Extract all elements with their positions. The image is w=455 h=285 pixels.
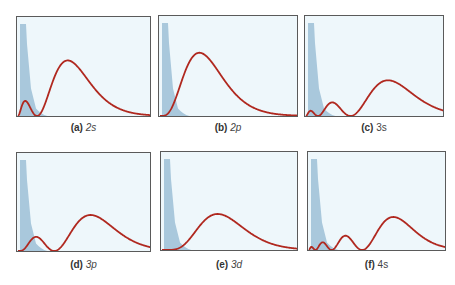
radial-probability-curve bbox=[18, 60, 151, 116]
caption-3p: (d) 3p bbox=[16, 259, 151, 270]
curve-svg bbox=[159, 16, 298, 117]
core-density-area bbox=[311, 159, 341, 251]
caption-orbital: 3d bbox=[231, 259, 242, 270]
caption-3d: (e) 3d bbox=[160, 259, 298, 270]
caption-tag: (f) bbox=[365, 259, 378, 270]
curve-svg bbox=[17, 153, 151, 252]
panel-3p: (d) 3p bbox=[16, 152, 151, 274]
core-density-area bbox=[164, 159, 194, 251]
caption-orbital: 2p bbox=[230, 122, 241, 133]
panel-4s: (f) 4s bbox=[307, 151, 446, 273]
curve-svg bbox=[305, 16, 444, 117]
curve-svg bbox=[308, 152, 446, 251]
panel-2s: (a) 2s bbox=[16, 16, 151, 138]
caption-2p: (b) 2p bbox=[158, 122, 298, 133]
panel-2p: (b) 2p bbox=[158, 15, 298, 137]
caption-tag: (e) bbox=[216, 259, 231, 270]
core-density-area bbox=[162, 23, 192, 117]
plot-2s bbox=[16, 16, 151, 117]
radial-probability-curve bbox=[160, 53, 298, 116]
plot-2p bbox=[158, 15, 298, 117]
caption-orbital: 3s bbox=[376, 122, 387, 133]
plot-3s bbox=[304, 15, 444, 117]
radial-probability-curve bbox=[162, 214, 298, 250]
curve-svg bbox=[17, 17, 151, 117]
caption-2s: (a) 2s bbox=[16, 122, 151, 133]
caption-orbital: 2s bbox=[86, 122, 97, 133]
caption-orbital: 4s bbox=[378, 259, 389, 270]
plot-3d bbox=[160, 151, 298, 251]
radial-probability-curve bbox=[306, 80, 444, 116]
panel-3d: (e) 3d bbox=[160, 151, 298, 273]
caption-tag: (c) bbox=[361, 122, 376, 133]
panel-3s: (c) 3s bbox=[304, 15, 444, 137]
caption-tag: (b) bbox=[215, 122, 231, 133]
plot-3p bbox=[16, 152, 151, 252]
radial-probability-curve bbox=[309, 217, 446, 250]
caption-tag: (a) bbox=[71, 122, 86, 133]
caption-orbital: 3p bbox=[86, 259, 97, 270]
caption-4s: (f) 4s bbox=[307, 259, 446, 270]
caption-3s: (c) 3s bbox=[304, 122, 444, 133]
caption-tag: (d) bbox=[70, 259, 86, 270]
curve-svg bbox=[161, 152, 298, 251]
plot-4s bbox=[307, 151, 446, 251]
